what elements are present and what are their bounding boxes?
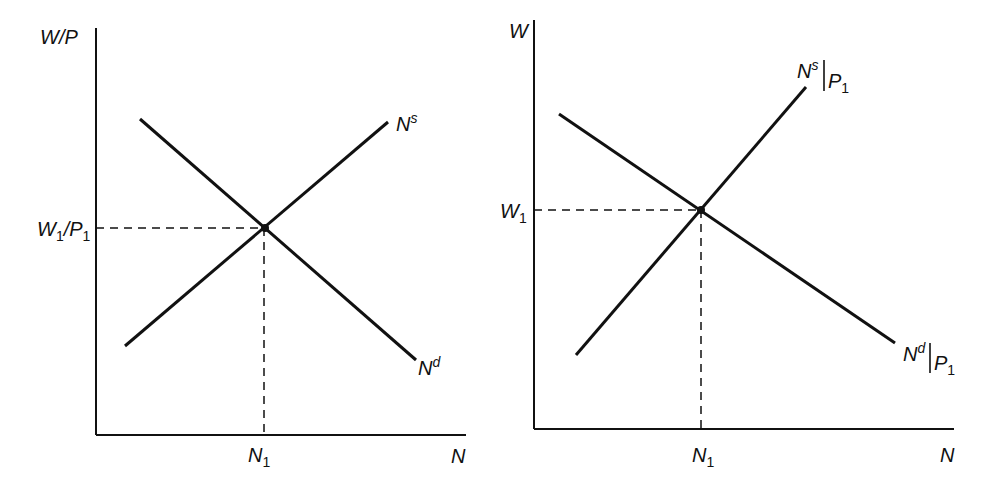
labor-market-diagrams: W/P N W1/P1 N1 Ns Nd W N W1 N1 Ns P1 Nd … [0,0,984,487]
svg-text:Nd: Nd [903,340,926,365]
left-y-axis-label: W/P [40,26,78,48]
right-y-axis-label: W [509,20,530,42]
left-supply-label: Ns [396,110,417,135]
left-supply-curve [125,122,388,346]
right-demand-label: Nd P1 [903,340,955,378]
svg-text:P1: P1 [934,352,955,378]
right-supply-curve [576,87,806,355]
right-x-axis-label: N [940,444,955,466]
left-equilibrium-point [261,224,269,232]
right-eq-x-label: N1 [692,444,714,470]
left-chart: W/P N W1/P1 N1 Ns Nd [37,26,466,470]
right-equilibrium-point [697,206,705,214]
left-demand-curve [140,119,416,360]
right-eq-y-label: W1 [500,200,527,226]
svg-text:P1: P1 [828,70,849,96]
left-demand-label: Nd [418,354,441,379]
right-chart: W N W1 N1 Ns P1 Nd P1 [500,20,955,470]
svg-text:Ns: Ns [797,57,818,82]
right-demand-curve [559,114,895,343]
left-x-axis-label: N [451,445,466,467]
left-eq-x-label: N1 [248,444,270,470]
left-eq-y-label: W1/P1 [37,218,91,244]
